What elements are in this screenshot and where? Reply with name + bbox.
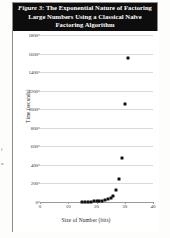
y-axis-tick-mark xyxy=(38,53,40,54)
y-gridline xyxy=(40,72,153,73)
y-axis-tick-mark xyxy=(38,72,40,73)
y-axis-tick-label: 1800 xyxy=(28,33,38,38)
x-axis-tick-label: 30 xyxy=(122,204,127,209)
y-axis-tick-label: 1200 xyxy=(28,88,38,93)
y-gridline xyxy=(40,183,153,184)
page-edge-fragment-1: l xyxy=(1,146,10,153)
y-axis-tick-label: 600 xyxy=(31,144,38,149)
y-axis-tick-mark xyxy=(38,146,40,147)
figure-caption-text: The Exponential Nature of Factoring Larg… xyxy=(28,4,152,28)
plot-area-wrapper: Time (seconds) 0200400600800100012001400… xyxy=(13,31,159,232)
scatter-plot-canvas: 0200400600800100012001400160018000102030… xyxy=(40,35,153,202)
page-edge-fragment-2: n xyxy=(1,160,10,167)
data-point xyxy=(123,102,126,105)
y-axis-tick-mark xyxy=(38,127,40,128)
y-axis-tick-label: 800 xyxy=(31,125,38,130)
y-axis-tick-mark xyxy=(38,35,40,36)
y-gridline xyxy=(40,35,153,36)
data-point xyxy=(120,157,123,160)
y-axis-tick-label: 1600 xyxy=(28,51,38,56)
y-axis-tick-mark xyxy=(38,164,40,165)
figure-caption: Figure 3: The Exponential Nature of Fact… xyxy=(13,3,157,31)
x-axis-tick-label: 0 xyxy=(39,204,41,209)
x-axis-tick-mark xyxy=(68,202,69,204)
x-axis-tick-mark xyxy=(40,202,41,204)
data-point xyxy=(112,195,115,198)
y-gridline xyxy=(40,146,153,147)
data-point xyxy=(115,188,118,191)
x-axis-tick-label: 10 xyxy=(66,204,71,209)
y-gridline xyxy=(40,128,153,129)
y-axis-tick-label: 400 xyxy=(31,162,38,167)
figure-container: Figure 3: The Exponential Nature of Fact… xyxy=(12,2,158,232)
scanned-page-background: l n Figure 3: The Exponential Nature of … xyxy=(0,0,170,238)
data-point xyxy=(126,57,129,60)
x-axis-tick-label: 20 xyxy=(94,204,99,209)
figure-number-label: Figure 3 xyxy=(18,4,42,11)
x-axis-tick-label: 40 xyxy=(151,204,156,209)
x-axis-tick-mark xyxy=(153,202,154,204)
y-axis-tick-mark xyxy=(38,183,40,184)
y-axis-tick-mark xyxy=(38,109,40,110)
y-axis-tick-label: 200 xyxy=(31,181,38,186)
y-gridline xyxy=(40,165,153,166)
y-gridline xyxy=(40,109,153,110)
y-axis-tick-label: 1400 xyxy=(28,70,38,75)
x-axis-title: Size of Number (bits) xyxy=(13,217,159,223)
y-axis-tick-mark xyxy=(38,90,40,91)
data-point xyxy=(118,177,121,180)
y-axis-tick-label: 1000 xyxy=(28,107,38,112)
y-gridline xyxy=(40,54,153,55)
y-gridline xyxy=(40,91,153,92)
x-axis-tick-mark xyxy=(125,202,126,204)
